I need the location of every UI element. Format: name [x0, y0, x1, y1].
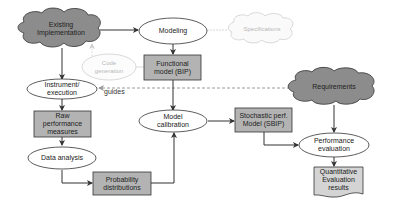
node-code-generation-shape: [82, 54, 136, 80]
diagram-canvas: [0, 0, 396, 208]
node-requirements-shape: [288, 67, 374, 104]
edge-probability-to-calibration: [151, 133, 174, 183]
node-model-calibration-shape: [139, 110, 207, 132]
edge-stochastic-to-perfeval: [264, 132, 298, 145]
edges: [62, 30, 334, 183]
node-stochastic-model-shape: [235, 108, 292, 132]
node-quantitative-results-shape: [314, 167, 363, 197]
node-modeling-shape: [139, 18, 207, 44]
node-existing-implementation-shape: [18, 8, 100, 47]
node-probability-distributions-shape: [93, 172, 151, 195]
node-raw-performance-shape: [34, 111, 91, 137]
node-functional-model-shape: [144, 55, 201, 80]
node-instrument-execution-shape: [27, 79, 97, 99]
node-performance-evaluation-shape: [299, 133, 369, 157]
node-specifications-shape: [228, 13, 292, 43]
node-data-analysis-shape: [28, 147, 96, 169]
label-guides: guides: [104, 88, 125, 95]
edge-dataanalysis-to-probability: [62, 170, 92, 183]
